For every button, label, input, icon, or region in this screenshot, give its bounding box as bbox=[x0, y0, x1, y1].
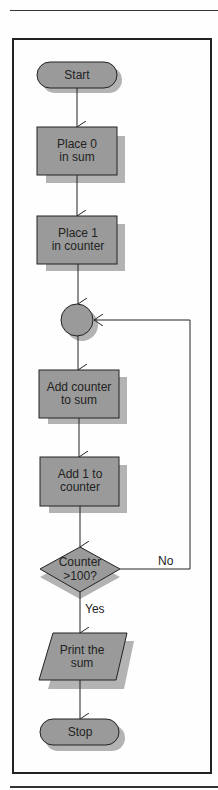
print-line2: sum bbox=[71, 656, 94, 670]
place-sum-line2: in sum bbox=[59, 150, 94, 164]
start-terminal: Start bbox=[37, 62, 122, 93]
add-counter-line2: to sum bbox=[61, 393, 97, 407]
decision-diamond: Counter >100? bbox=[40, 547, 120, 599]
stop-label: Stop bbox=[68, 725, 93, 739]
add-one-line1: Add 1 to bbox=[58, 467, 103, 481]
place-counter-line1: Place 1 bbox=[58, 226, 98, 240]
start-label: Start bbox=[64, 68, 90, 82]
connector-circle bbox=[61, 304, 98, 341]
no-label: No bbox=[158, 554, 174, 568]
edge-no-loop bbox=[94, 320, 190, 569]
place-counter-line2: in counter bbox=[52, 239, 105, 253]
add-counter-line1: Add counter bbox=[47, 380, 112, 394]
add-one-line2: counter bbox=[60, 480, 100, 494]
yes-label: Yes bbox=[85, 602, 105, 616]
process-place-sum: Place 0 in sum bbox=[37, 127, 125, 183]
process-add-counter: Add counter to sum bbox=[39, 370, 127, 424]
print-line1: Print the bbox=[60, 643, 105, 657]
place-sum-line1: Place 0 bbox=[57, 137, 97, 151]
io-print-sum: Print the sum bbox=[39, 633, 134, 689]
process-add-one: Add 1 to counter bbox=[40, 457, 127, 513]
decision-line1: Counter bbox=[59, 555, 102, 569]
stop-terminal: Stop bbox=[40, 719, 125, 751]
decision-line2: >100? bbox=[63, 569, 97, 583]
flowchart: Start Place 0 in sum Place 1 in counter … bbox=[0, 0, 218, 790]
process-place-counter: Place 1 in counter bbox=[37, 216, 125, 271]
